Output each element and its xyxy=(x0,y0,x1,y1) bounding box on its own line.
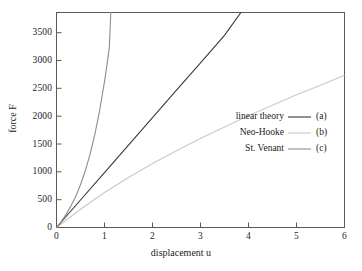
legend-tag-b: (b) xyxy=(316,127,344,137)
legend-label-neo-hooke: Neo-Hooke xyxy=(200,127,284,137)
x-tick-label-4: 4 xyxy=(236,231,261,241)
x-tick-marks xyxy=(57,223,345,228)
series-line-st-venant xyxy=(57,12,111,228)
x-tick-label-3: 3 xyxy=(188,231,213,241)
legend-sample-lines xyxy=(288,117,311,149)
x-tick-label-0: 0 xyxy=(44,231,69,241)
x-tick-label-6: 6 xyxy=(332,231,357,241)
y-tick-marks xyxy=(57,33,62,228)
y-axis-title: force F xyxy=(7,89,18,149)
y-tick-label-1000: 1000 xyxy=(10,166,52,176)
x-tick-label-2: 2 xyxy=(140,231,165,241)
y-tick-label-500: 500 xyxy=(10,194,52,204)
x-tick-label-5: 5 xyxy=(284,231,309,241)
legend-label-st-venant: St. Venant xyxy=(200,143,284,153)
y-tick-label-3500: 3500 xyxy=(10,27,52,37)
legend-tag-c: (c) xyxy=(316,143,344,153)
x-axis-title: displacement u xyxy=(0,247,362,258)
legend-label-linear-theory: linear theory xyxy=(200,111,284,121)
legend-tag-a: (a) xyxy=(316,111,344,121)
figure-container: 0 500 1000 1500 2000 2500 3000 3500 0 1 … xyxy=(0,0,362,271)
y-tick-label-3000: 3000 xyxy=(10,55,52,65)
x-tick-label-1: 1 xyxy=(92,231,117,241)
